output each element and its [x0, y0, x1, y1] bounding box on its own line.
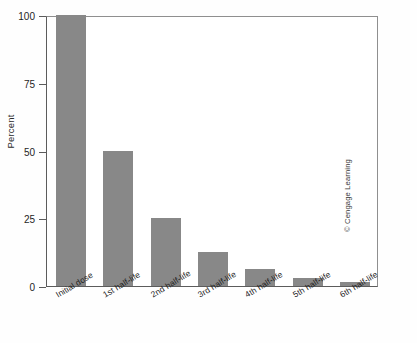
plot-area [46, 16, 378, 287]
y-axis-tick-label: 0 [0, 282, 35, 293]
y-axis-tick [39, 219, 46, 220]
copyright-credit: © Cengage Learning [343, 122, 352, 232]
bar [56, 15, 86, 286]
y-axis-tick-label: 75 [0, 78, 35, 89]
chart-figure: Percent 0255075100 Initial dose1st half-… [0, 0, 417, 343]
y-axis-tick [39, 152, 46, 153]
y-axis-tick [39, 287, 46, 288]
bar [103, 151, 133, 287]
y-axis-tick-label: 100 [0, 11, 35, 22]
y-axis-tick [39, 16, 46, 17]
y-axis-tick-label: 25 [0, 214, 35, 225]
y-axis-tick-label: 50 [0, 146, 35, 157]
y-axis-tick [39, 84, 46, 85]
